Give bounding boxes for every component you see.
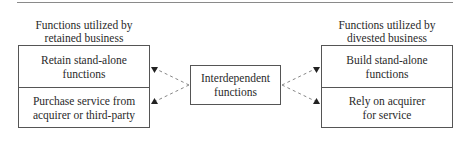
connector-arrows <box>0 0 469 141</box>
arrowhead-up-icon <box>151 98 158 104</box>
arrowhead-down-icon <box>313 67 320 73</box>
arrow-to-retain-line <box>156 69 189 85</box>
arrow-to-build-line <box>282 69 315 85</box>
arrowhead-down-icon <box>151 67 158 73</box>
arrow-to-purchase-line <box>156 85 189 101</box>
arrow-to-rely-line <box>282 85 315 101</box>
arrowhead-up-icon <box>313 98 320 104</box>
